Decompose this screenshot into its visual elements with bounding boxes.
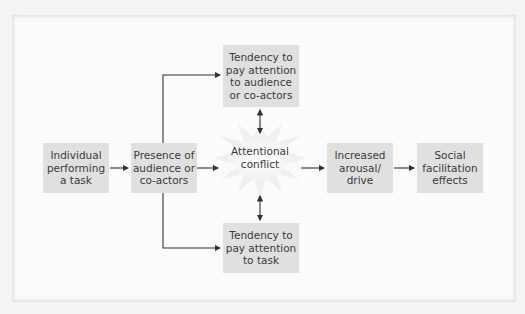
node-attend-audience: Tendency topay attentionto audienceor co… xyxy=(223,45,299,107)
node-effects: Socialfacilitationeffects xyxy=(417,143,483,193)
node-attend-task: Tendency topay attentionto task xyxy=(223,223,299,273)
node-text: a task xyxy=(47,174,105,187)
node-text: co-actors xyxy=(133,174,195,187)
node-text: arousal/ xyxy=(334,162,385,175)
node-text: audience or xyxy=(133,162,195,175)
node-text: performing xyxy=(47,162,105,175)
node-text: pay attention xyxy=(226,64,297,77)
node-conflict: Attentionalconflict xyxy=(220,145,300,170)
node-text: effects xyxy=(422,174,477,187)
node-text: conflict xyxy=(220,158,300,171)
node-text: Individual xyxy=(47,149,105,162)
node-text: Presence of xyxy=(133,149,195,162)
node-presence: Presence ofaudience orco-actors xyxy=(131,143,197,193)
edge-presence-task xyxy=(163,192,220,248)
edge-presence-audience xyxy=(163,75,220,143)
node-text: drive xyxy=(334,174,385,187)
node-arousal: Increasedarousal/drive xyxy=(327,143,393,193)
node-text: Social xyxy=(422,149,477,162)
node-text: Attentional xyxy=(220,145,300,158)
node-text: to task xyxy=(226,254,297,267)
node-text: facilitation xyxy=(422,162,477,175)
node-text: Tendency to xyxy=(226,229,297,242)
node-text: pay attention xyxy=(226,242,297,255)
node-text: Tendency to xyxy=(226,51,297,64)
node-text: Increased xyxy=(334,149,385,162)
node-individual: Individualperforminga task xyxy=(43,143,109,193)
node-text: or co-actors xyxy=(226,89,297,102)
node-text: to audience xyxy=(226,76,297,89)
